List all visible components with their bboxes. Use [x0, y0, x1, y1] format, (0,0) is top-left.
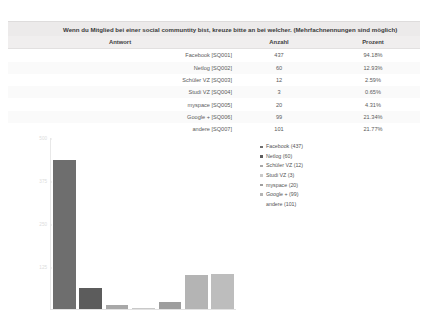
legend-item: Schüler VZ (12)	[260, 161, 400, 171]
cell-answer: Google + [SQ006]	[8, 111, 232, 123]
y-axis-tick-label: 500	[39, 136, 50, 141]
legend-item: Google + (99)	[260, 190, 400, 200]
cell-count: 60	[232, 62, 326, 74]
bar-slot	[157, 138, 183, 309]
y-axis-tick-label: 125	[39, 265, 50, 270]
chart-bar	[159, 302, 182, 309]
table-header-row: Antwort Anzahl Prozent	[8, 36, 420, 49]
survey-results-page: Wenn du Mitglied bei einer social commun…	[0, 0, 428, 322]
chart-bar	[79, 288, 102, 309]
y-axis-tick-label: 375	[39, 179, 50, 184]
bar-slot	[183, 138, 209, 309]
legend-item: Netlog (60)	[260, 152, 400, 162]
legend-label: Google + (99)	[266, 192, 299, 197]
cell-percent: 94.18%	[326, 49, 420, 62]
cell-answer: Studi VZ [SQ004]	[8, 86, 232, 98]
chart-bar	[53, 160, 76, 309]
bar-slot	[104, 138, 130, 309]
legend-swatch-icon	[260, 174, 263, 177]
chart-bar	[132, 308, 155, 309]
bar-slot	[130, 138, 156, 309]
legend-swatch-icon	[260, 193, 263, 196]
cell-percent: 12.93%	[326, 62, 420, 74]
bar-slot	[210, 138, 236, 309]
legend-swatch-icon	[260, 165, 263, 168]
question-title-band: Wenn du Mitglied bei einer social commun…	[8, 21, 420, 36]
legend-label: Schüler VZ (12)	[266, 163, 303, 168]
bar-slot	[51, 138, 77, 309]
table-row: Netlog [SQ002]6012.93%	[8, 62, 420, 74]
cell-answer: Netlog [SQ002]	[8, 62, 232, 74]
cell-answer: Facebook [SQ001]	[8, 49, 232, 62]
chart-bar	[185, 275, 208, 309]
cell-count: 12	[232, 74, 326, 86]
legend-swatch-icon	[260, 184, 263, 187]
legend-swatch-icon	[260, 146, 263, 149]
legend-label: Studi VZ (3)	[266, 173, 294, 178]
table-row: Facebook [SQ001]43794.18%	[8, 49, 420, 62]
table-row: Google + [SQ006]9921.34%	[8, 111, 420, 123]
bar-chart: 500375250125 Facebook (437)Netlog (60)Sc…	[14, 132, 414, 312]
cell-count: 437	[232, 49, 326, 62]
table-body: Facebook [SQ001]43794.18%Netlog [SQ002]6…	[8, 49, 420, 136]
bar-slot	[77, 138, 103, 309]
legend-item: Studi VZ (3)	[260, 171, 400, 181]
x-axis-line	[50, 309, 236, 310]
legend-item: Facebook (437)	[260, 142, 400, 152]
table-row: Schüler VZ [SQ003]122.59%	[8, 74, 420, 86]
cell-percent: 21.34%	[326, 111, 420, 123]
chart-bar	[106, 305, 129, 309]
chart-legend: Facebook (437)Netlog (60)Schüler VZ (12)…	[260, 142, 400, 209]
cell-percent: 0.65%	[326, 86, 420, 98]
legend-item: myspace (20)	[260, 180, 400, 190]
column-header-percent: Prozent	[326, 36, 420, 49]
results-table: Antwort Anzahl Prozent Facebook [SQ001]4…	[8, 36, 420, 135]
legend-swatch-icon	[260, 155, 263, 158]
cell-percent: 4.31%	[326, 98, 420, 110]
table-header: Antwort Anzahl Prozent	[8, 36, 420, 49]
chart-bar	[211, 274, 234, 309]
legend-swatch-icon	[260, 203, 263, 206]
cell-count: 3	[232, 86, 326, 98]
chart-plot-area: 500375250125	[50, 138, 236, 310]
chart-bars	[51, 138, 236, 309]
cell-answer: myspace [SQ005]	[8, 98, 232, 110]
legend-label: Facebook (437)	[266, 144, 303, 149]
cell-percent: 2.59%	[326, 74, 420, 86]
column-header-count: Anzahl	[232, 36, 326, 49]
legend-label: myspace (20)	[266, 183, 298, 188]
legend-item: andere (101)	[260, 200, 400, 210]
cell-count: 99	[232, 111, 326, 123]
cell-count: 20	[232, 98, 326, 110]
cell-answer: Schüler VZ [SQ003]	[8, 74, 232, 86]
table-row: Studi VZ [SQ004]30.65%	[8, 86, 420, 98]
table-row: myspace [SQ005]204.31%	[8, 98, 420, 110]
legend-label: andere (101)	[266, 202, 296, 207]
page-title: Wenn du Mitglied bei einer social commun…	[63, 26, 397, 33]
y-axis-tick-label: 250	[39, 222, 50, 227]
legend-label: Netlog (60)	[266, 154, 292, 159]
column-header-answer: Antwort	[8, 36, 232, 49]
